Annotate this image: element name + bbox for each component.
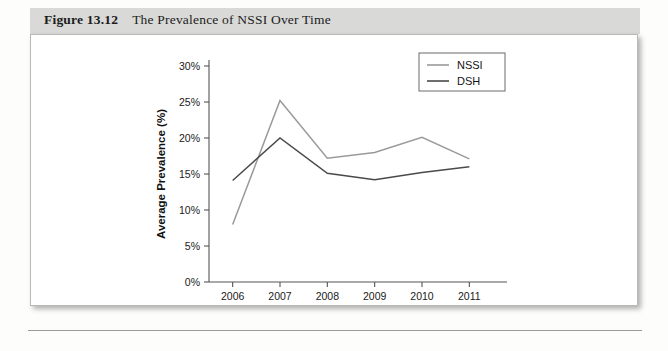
x-tick-label: 2008 bbox=[316, 290, 340, 302]
y-axis-title: Average Prevalence (%) bbox=[155, 109, 167, 239]
x-tick-label: 2009 bbox=[363, 290, 387, 302]
line-chart: 0%5%10%15%20%25%30%200620072008200920102… bbox=[31, 35, 639, 307]
plot-area: 0%5%10%15%20%25%30%200620072008200920102… bbox=[31, 35, 639, 307]
figure-number: Figure 13.12 bbox=[44, 12, 118, 27]
x-tick-label: 2010 bbox=[410, 290, 434, 302]
page-divider bbox=[28, 330, 642, 331]
y-tick-label: 30% bbox=[179, 60, 200, 72]
y-tick-label: 0% bbox=[185, 276, 200, 288]
figure-panel: 0%5%10%15%20%25%30%200620072008200920102… bbox=[30, 34, 638, 306]
figure-title: The Prevalence of NSSI Over Time bbox=[132, 12, 331, 27]
x-tick-label: 2006 bbox=[221, 290, 245, 302]
y-tick-label: 15% bbox=[179, 168, 200, 180]
series-line-nssi bbox=[233, 101, 470, 225]
figure-caption: Figure 13.12The Prevalence of NSSI Over … bbox=[44, 12, 331, 28]
series-line-dsh bbox=[233, 138, 470, 180]
legend-label-nssi: NSSI bbox=[457, 59, 483, 71]
legend-label-dsh: DSH bbox=[457, 75, 480, 87]
x-tick-label: 2007 bbox=[268, 290, 292, 302]
y-tick-label: 10% bbox=[179, 204, 200, 216]
figure-page: Figure 13.12The Prevalence of NSSI Over … bbox=[0, 0, 668, 351]
x-tick-label: 2011 bbox=[458, 290, 481, 302]
y-tick-label: 25% bbox=[179, 96, 200, 108]
y-tick-label: 5% bbox=[185, 240, 200, 252]
y-tick-label: 20% bbox=[179, 132, 200, 144]
